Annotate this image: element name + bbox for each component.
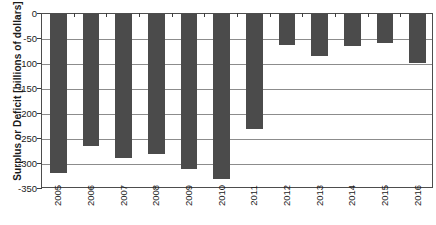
x-tick-label: 2014 bbox=[346, 179, 357, 213]
x-tick-mark bbox=[302, 13, 303, 17]
x-tick-mark bbox=[368, 13, 369, 17]
plot-area bbox=[41, 13, 433, 188]
bar bbox=[409, 14, 426, 63]
x-tick-label: 2012 bbox=[281, 179, 292, 213]
bar bbox=[148, 14, 165, 154]
x-tick-label: 2008 bbox=[150, 179, 161, 213]
x-tick-mark bbox=[204, 13, 205, 17]
bar bbox=[50, 14, 67, 173]
x-tick-mark bbox=[400, 13, 401, 17]
x-tick-mark bbox=[139, 13, 140, 17]
y-tick-label: -50 bbox=[3, 34, 37, 43]
gridline bbox=[42, 89, 432, 90]
y-axis-tick-labels: 0-50-100-150-200-250-300-350 bbox=[0, 0, 37, 225]
gridline bbox=[42, 139, 432, 140]
bar bbox=[311, 14, 328, 56]
x-tick-label: 2009 bbox=[183, 179, 194, 213]
x-tick-label: 2016 bbox=[411, 179, 422, 213]
y-tick-label: -200 bbox=[3, 109, 37, 118]
x-axis-tick-marks bbox=[41, 13, 433, 18]
x-tick-label: 2015 bbox=[379, 179, 390, 213]
bar bbox=[115, 14, 132, 158]
gridline bbox=[42, 39, 432, 40]
x-tick-mark bbox=[172, 13, 173, 17]
y-tick-mark bbox=[37, 188, 42, 189]
y-tick-label: -350 bbox=[3, 184, 37, 193]
bar bbox=[344, 14, 361, 46]
x-tick-label: 2013 bbox=[313, 179, 324, 213]
x-tick-mark bbox=[335, 13, 336, 17]
x-tick-label: 2010 bbox=[215, 179, 226, 213]
x-axis-tick-labels: 2005200620072008200920102011201220132014… bbox=[41, 190, 433, 225]
bar bbox=[377, 14, 394, 43]
y-tick-label: -150 bbox=[3, 84, 37, 93]
y-tick-label: -250 bbox=[3, 134, 37, 143]
gridline bbox=[42, 64, 432, 65]
x-tick-label: 2006 bbox=[85, 179, 96, 213]
x-tick-label: 2011 bbox=[248, 179, 259, 213]
gridline bbox=[42, 114, 432, 115]
x-tick-mark bbox=[106, 13, 107, 17]
x-tick-mark bbox=[237, 13, 238, 17]
y-tick-label: 0 bbox=[3, 9, 37, 18]
x-tick-label: 2007 bbox=[117, 179, 128, 213]
bar bbox=[181, 14, 198, 169]
bar bbox=[279, 14, 296, 45]
x-tick-label: 2005 bbox=[52, 179, 63, 213]
x-tick-mark bbox=[270, 13, 271, 17]
bar bbox=[83, 14, 100, 146]
y-tick-label: -300 bbox=[3, 159, 37, 168]
bar bbox=[213, 14, 230, 179]
x-tick-mark bbox=[74, 13, 75, 17]
y-tick-label: -100 bbox=[3, 59, 37, 68]
bar-chart: Surplus or Deficit [billions of dollars]… bbox=[0, 0, 436, 225]
gridline bbox=[42, 164, 432, 165]
bar bbox=[246, 14, 263, 129]
